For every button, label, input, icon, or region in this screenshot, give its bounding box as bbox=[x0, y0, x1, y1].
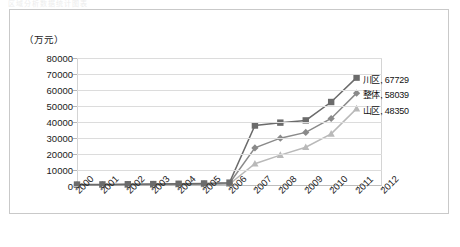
y-axis-unit-label: （万元） bbox=[24, 32, 64, 46]
top-caption: 区域分析数据统计图表 bbox=[8, 0, 248, 8]
y-axis-tick-mark bbox=[73, 138, 77, 139]
y-axis-tick-labels: 0100002000030000400005000060000700008000… bbox=[15, 58, 73, 186]
data-point-marker bbox=[328, 99, 334, 105]
series-end-data-label: 山区, 48350 bbox=[363, 104, 409, 117]
y-axis-tick-mark bbox=[73, 58, 77, 59]
y-axis-tick-label: 0 bbox=[19, 181, 73, 192]
y-axis-tick-label: 10000 bbox=[19, 165, 73, 176]
y-axis-tick-label: 20000 bbox=[19, 149, 73, 160]
y-axis-tick-label: 30000 bbox=[19, 133, 73, 144]
gridline bbox=[77, 122, 382, 123]
y-axis-tick-mark bbox=[73, 74, 77, 75]
y-axis-tick-label: 60000 bbox=[19, 85, 73, 96]
chart-frame: （万元） 01000020000300004000050000600007000… bbox=[9, 9, 449, 214]
gridline bbox=[77, 170, 382, 171]
series-end-data-label: 川区, 67729 bbox=[363, 73, 409, 86]
y-axis-tick-mark bbox=[73, 90, 77, 91]
gridline bbox=[77, 74, 382, 75]
y-axis-tick-mark bbox=[73, 170, 77, 171]
y-axis-tick-label: 50000 bbox=[19, 101, 73, 112]
y-axis-tick-label: 40000 bbox=[19, 117, 73, 128]
y-axis-tick-mark bbox=[73, 122, 77, 123]
gridline bbox=[77, 138, 382, 139]
data-point-marker bbox=[353, 74, 359, 80]
data-point-marker bbox=[252, 122, 258, 128]
gridline bbox=[77, 106, 382, 107]
y-axis-tick-mark bbox=[73, 106, 77, 107]
y-axis-tick-label: 70000 bbox=[19, 69, 73, 80]
gridline bbox=[77, 154, 382, 155]
y-axis-tick-mark bbox=[73, 154, 77, 155]
chart-screenshot: 区域分析数据统计图表 （万元） 010000200003000040000500… bbox=[0, 0, 460, 247]
gridline bbox=[77, 90, 382, 91]
x-axis-tick-labels: 2000200120022003200420052006200720082009… bbox=[77, 188, 382, 234]
data-point-marker bbox=[302, 129, 309, 136]
series-line bbox=[77, 78, 357, 185]
plot-area bbox=[77, 58, 382, 186]
series-end-data-label: 整体, 58039 bbox=[363, 88, 409, 101]
y-axis-tick-label: 80000 bbox=[19, 53, 73, 64]
gridline bbox=[77, 58, 382, 59]
